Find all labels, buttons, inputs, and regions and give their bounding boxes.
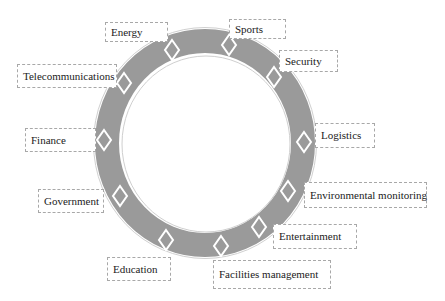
label-text: Environmental monitoring [310, 190, 427, 201]
label-facilities-management: Facilities management [213, 260, 331, 289]
label-text: Logistics [321, 130, 361, 141]
label-security: Security [279, 50, 338, 72]
label-text: Telecommunications [23, 71, 114, 82]
label-sports: Sports [229, 19, 286, 39]
label-entertainment: Entertainment [273, 224, 357, 249]
label-logistics: Logistics [315, 123, 375, 148]
label-text: Security [285, 56, 322, 67]
label-text: Finance [31, 135, 66, 146]
label-text: Education [113, 264, 158, 275]
label-text: Sports [235, 24, 263, 35]
label-education: Education [107, 257, 171, 281]
label-text: Energy [111, 27, 143, 38]
ring-inner-edge [122, 56, 290, 232]
label-energy: Energy [105, 22, 168, 42]
label-text: Entertainment [279, 231, 341, 242]
label-text: Facilities management [219, 269, 318, 280]
label-government: Government [38, 189, 104, 213]
label-environmental-monitoring: Environmental monitoring [304, 182, 427, 208]
label-finance: Finance [25, 128, 96, 152]
label-text: Government [44, 196, 99, 207]
label-telecommunications: Telecommunications [17, 64, 117, 88]
